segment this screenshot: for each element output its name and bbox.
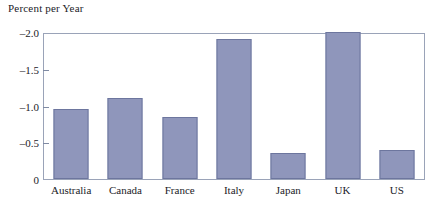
- x-tick-label: Canada: [109, 184, 142, 196]
- x-tick-label: Japan: [276, 184, 301, 196]
- bar: [216, 39, 251, 179]
- bar-slot: [370, 34, 424, 179]
- bar: [162, 117, 197, 179]
- x-tick-label: Australia: [51, 184, 91, 196]
- bar: [54, 109, 89, 179]
- y-tick-mark: [43, 107, 49, 108]
- y-tick-label: –1.0: [3, 101, 39, 113]
- y-tick-label: 0: [3, 174, 39, 186]
- bar: [325, 32, 360, 179]
- bar-series: [44, 34, 424, 179]
- y-axis: –2.0–1.5–1.0–0.50: [0, 0, 39, 205]
- y-tick-mark: [43, 143, 49, 144]
- x-axis: AustraliaCanadaFranceItalyJapanUKUS: [44, 184, 424, 202]
- bar-slot: [44, 34, 98, 179]
- x-tick-label: Italy: [224, 184, 244, 196]
- x-tick-label: UK: [335, 184, 351, 196]
- bar-slot: [315, 34, 369, 179]
- bar-slot: [207, 34, 261, 179]
- bar: [379, 150, 414, 179]
- y-tick-mark: [43, 70, 49, 71]
- bar-slot: [98, 34, 152, 179]
- chart-figure: Percent per Year –2.0–1.5–1.0–0.50 Austr…: [0, 0, 437, 205]
- x-tick-label: France: [165, 184, 195, 196]
- bar-slot: [153, 34, 207, 179]
- x-tick-label: US: [390, 184, 404, 196]
- y-tick-label: –0.5: [3, 137, 39, 149]
- bar: [271, 153, 306, 179]
- bar-slot: [261, 34, 315, 179]
- y-tick-label: –1.5: [3, 64, 39, 76]
- y-tick-label: –2.0: [3, 27, 39, 39]
- bar: [108, 98, 143, 179]
